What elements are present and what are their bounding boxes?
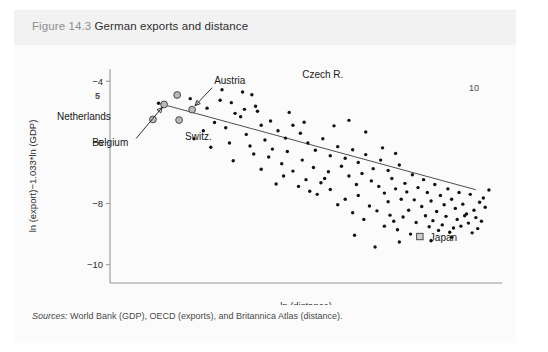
data-point [398,240,401,243]
leader-line [136,107,162,138]
data-point [205,106,208,109]
data-point [332,124,335,127]
data-point [461,202,464,205]
data-point [470,231,473,234]
data-point [269,119,272,122]
data-point [327,170,330,173]
data-point [224,126,227,129]
y-tick-label: −10 [87,259,103,270]
data-point [368,204,371,207]
data-point [213,121,216,124]
data-point [394,187,397,190]
data-point [426,191,429,194]
data-point [355,183,358,186]
data-point [377,185,380,188]
figure-panel: Figure 14.3 German exports and distance … [14,10,516,343]
data-point [411,173,414,176]
page-marks: 105 [95,83,479,101]
data-point [467,221,470,224]
data-point [472,209,475,212]
data-point [400,198,403,201]
data-point [375,209,378,212]
data-point [420,205,423,208]
data-point [299,132,302,135]
data-point [478,201,481,204]
trend-line [159,103,476,190]
data-point [245,133,248,136]
data-point [396,228,399,231]
data-point [379,158,382,161]
data-point [403,182,406,185]
data-point [218,98,221,101]
data-point [357,161,360,164]
data-point [422,178,425,181]
data-point [157,102,160,105]
data-point [407,209,410,212]
data-point [314,149,317,152]
data-point [381,146,384,149]
data-point [431,219,434,222]
y-tick-label: −8 [92,198,103,209]
data-point [364,153,367,156]
data-point [383,224,386,227]
data-point [364,130,367,133]
data-point [429,199,432,202]
data-point [442,203,445,206]
point-label-belgium: Belgium [92,137,128,148]
leader-line [195,88,212,106]
point-label-japan: Japan [430,232,457,243]
data-point [452,226,455,229]
data-point [347,119,350,122]
data-point [459,224,462,227]
data-point [302,120,305,123]
data-point [405,190,408,193]
data-point [401,215,404,218]
data-point [271,147,274,150]
data-point [189,97,192,100]
data-point [232,159,235,162]
data-point [248,144,251,147]
data-point [360,172,363,175]
data-point [282,174,285,177]
data-point [250,93,253,96]
data-point [351,148,354,151]
data-point [316,193,319,196]
data-point [428,225,431,228]
data-point [288,111,291,114]
data-point [409,232,412,235]
data-point [263,138,266,141]
scatter-chart: −4−6−8−10ln (export)−1.033*ln (GDP)ln (d… [14,45,516,305]
data-point [291,169,294,172]
data-point [463,214,466,217]
data-point [362,218,365,221]
data-point [209,146,212,149]
source-note: Sources: World Bank (GDP), OECD (exports… [32,311,342,321]
data-point [480,220,483,223]
data-point [474,216,477,219]
data-point [446,187,449,190]
data-point [454,207,457,210]
y-tick-label: −4 [92,76,103,87]
data-point [390,177,393,180]
data-point [306,141,309,144]
data-point [351,211,354,214]
data-point [260,124,263,127]
data-point [329,154,332,157]
figure-title-text: German exports and distance [95,20,249,32]
data-point [373,245,376,248]
data-point [241,90,244,93]
data-point [252,152,255,155]
point-label-switz: Switz. [185,131,212,142]
data-point [344,157,347,160]
source-label: Sources: [32,311,68,321]
data-point [276,129,279,132]
point-annotations: Czech R.AustriaNetherlandsSwitz.BelgiumJ… [57,69,457,243]
data-point [469,193,472,196]
data-point [441,223,444,226]
data-point [323,177,326,180]
data-point [394,152,397,155]
data-point [435,210,438,213]
data-point [239,115,242,118]
data-point [370,179,373,182]
data-point [230,101,233,104]
